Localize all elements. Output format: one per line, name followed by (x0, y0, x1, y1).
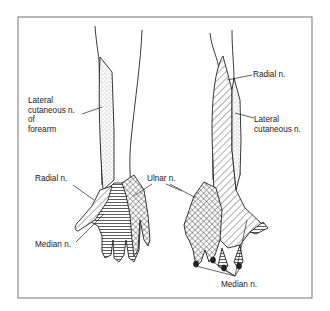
label-right-median-nerve: Median n. (221, 280, 257, 290)
label-right-lateral-cutaneous: Lateral cutaneous n. (254, 115, 301, 134)
nerve-distribution-diagram (0, 0, 330, 311)
label-left-median-nerve: Median n. (35, 240, 71, 250)
label-left-lateral-cutaneous: Lateral cutaneous n. of forearm (28, 96, 75, 134)
right-arm-dorsal-view (184, 30, 268, 271)
label-left-radial-nerve: Radial n. (35, 174, 67, 184)
figure-frame (18, 17, 312, 298)
label-right-radial-nerve: Radial n. (253, 70, 285, 80)
label-ulnar-nerve: Ulnar n. (147, 174, 176, 184)
left-arm-palmar-view (75, 26, 150, 262)
